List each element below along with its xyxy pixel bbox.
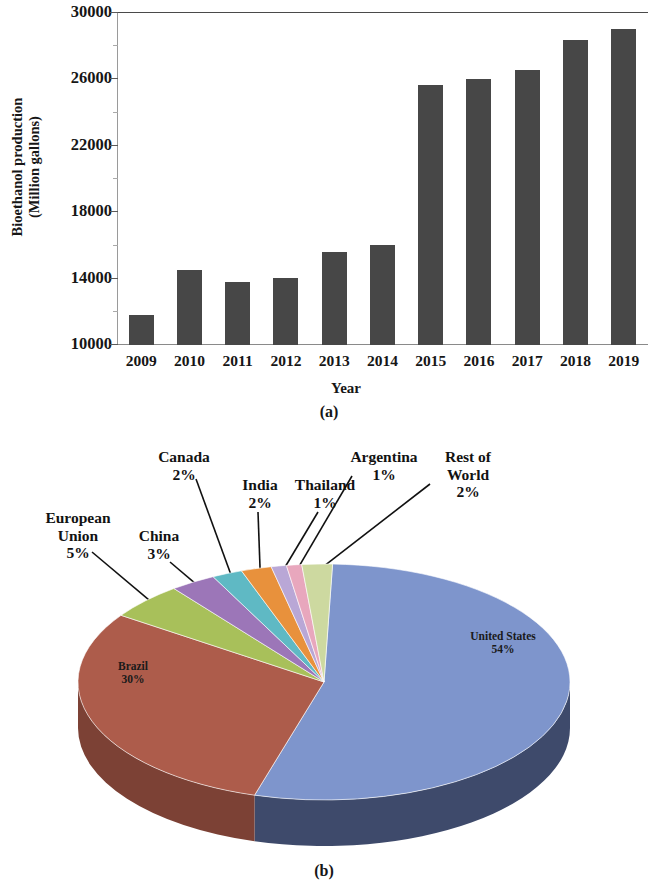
pie-callout-canada-value: 2% — [138, 466, 230, 484]
pie-callout-india-value: 2% — [229, 494, 291, 512]
pie-callout-european-union-line1: European — [22, 509, 134, 527]
bar-chart-x-tick-labels: 2009201020112012201320142015201620172018… — [117, 352, 648, 370]
pie-callout-india-line1: India — [229, 476, 291, 494]
pie-callout-rest-of-world: Rest of World 2% — [425, 448, 511, 501]
x-tick-label-2018: 2018 — [551, 352, 599, 370]
bar-slot-2015 — [407, 12, 455, 345]
bar-chart-bars — [117, 12, 648, 345]
pie-callout-china-line1: China — [124, 527, 194, 545]
panel-a-caption: (a) — [0, 403, 648, 421]
x-tick-label-2016: 2016 — [455, 352, 503, 370]
x-tick-label-2014: 2014 — [358, 352, 406, 370]
bar-slot-2009 — [117, 12, 165, 345]
pie-slice-label-united-states-value: 54% — [438, 643, 568, 656]
bar-2010 — [177, 270, 202, 345]
bar-slot-2014 — [358, 12, 406, 345]
pie-slice-label-united-states: United States 54% — [438, 630, 568, 656]
y-tick-label-30000: 30000 — [12, 2, 112, 22]
pie-slice-label-brazil-name: Brazil — [78, 660, 188, 673]
pie-chart-panel: European Union 5% China 3% Canada 2% Ind… — [0, 432, 648, 891]
pie-slice-label-brazil-value: 30% — [78, 673, 188, 686]
bar-2014 — [370, 245, 395, 345]
pie-slice-label-brazil: Brazil 30% — [78, 660, 188, 686]
bar-2019 — [611, 29, 636, 345]
pie-callout-argentina-line1: Argentina — [334, 448, 434, 466]
bar-2017 — [515, 70, 540, 345]
pie-callout-canada: Canada 2% — [138, 448, 230, 483]
pie-callout-european-union-value: 5% — [22, 544, 134, 562]
pie-callout-canada-line1: Canada — [138, 448, 230, 466]
pie-callout-argentina-value: 1% — [334, 466, 434, 484]
y-tick-label-14000: 14000 — [12, 268, 112, 288]
bar-slot-2012 — [262, 12, 310, 345]
bar-chart-y-tick-labels: 30000 26000 22000 18000 14000 10000 — [10, 0, 112, 440]
bar-2015 — [418, 85, 443, 345]
pie-leader-line-canada — [196, 479, 233, 580]
pie-callout-china: China 3% — [124, 527, 194, 562]
bar-slot-2017 — [503, 12, 551, 345]
bar-2011 — [225, 282, 250, 345]
pie-callout-india: India 2% — [229, 476, 291, 511]
x-tick-label-2019: 2019 — [600, 352, 648, 370]
pie-leader-line-india — [258, 512, 260, 575]
bar-slot-2010 — [165, 12, 213, 345]
figure-container: Bioethanol production (Million gallons) … — [0, 0, 648, 891]
pie-slice-label-united-states-name: United States — [438, 630, 568, 643]
pie-callout-european-union-line2: Union — [22, 527, 134, 545]
y-tick-label-18000: 18000 — [12, 201, 112, 221]
pie-callout-rest-of-world-line1: Rest of — [425, 448, 511, 466]
y-tick-label-22000: 22000 — [12, 135, 112, 155]
x-tick-label-2013: 2013 — [310, 352, 358, 370]
bar-slot-2018 — [551, 12, 599, 345]
x-tick-label-2009: 2009 — [117, 352, 165, 370]
bar-slot-2013 — [310, 12, 358, 345]
bar-chart-x-axis-title: Year — [0, 380, 648, 397]
bar-2013 — [322, 252, 347, 345]
bar-slot-2019 — [600, 12, 648, 345]
x-tick-label-2011: 2011 — [214, 352, 262, 370]
x-tick-label-2010: 2010 — [165, 352, 213, 370]
pie-callout-argentina: Argentina 1% — [334, 448, 434, 483]
pie-callout-thailand-value: 1% — [287, 494, 363, 512]
y-tick-label-26000: 26000 — [12, 68, 112, 88]
x-tick-label-2012: 2012 — [262, 352, 310, 370]
bar-slot-2016 — [455, 12, 503, 345]
bar-slot-2011 — [214, 12, 262, 345]
bar-2018 — [563, 40, 588, 345]
x-tick-label-2015: 2015 — [407, 352, 455, 370]
pie-callout-european-union: European Union 5% — [22, 509, 134, 562]
pie-callout-rest-of-world-value: 2% — [425, 483, 511, 501]
panel-b-caption: (b) — [0, 862, 648, 880]
y-tick-label-10000: 10000 — [12, 334, 112, 354]
bar-2016 — [466, 79, 491, 345]
pie-callout-rest-of-world-line2: World — [425, 466, 511, 484]
x-tick-label-2017: 2017 — [503, 352, 551, 370]
pie-callout-china-value: 3% — [124, 545, 194, 563]
bar-2012 — [273, 278, 298, 345]
bar-chart-panel: Bioethanol production (Million gallons) … — [0, 0, 648, 440]
bar-2009 — [129, 315, 154, 345]
